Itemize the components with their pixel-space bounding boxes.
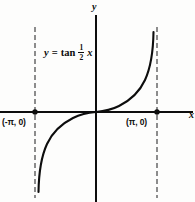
fraction-numerator: 1 — [79, 44, 84, 52]
left-intercept-dot — [32, 109, 37, 114]
tangent-graph-figure: y x (-π, 0) (π, 0) y = tan 1 2 x — [0, 0, 195, 202]
equation-equals-sign: = — [51, 48, 58, 59]
equation-label: y = tan 1 2 x — [44, 44, 93, 62]
equation-function-name: tan — [61, 48, 76, 59]
right-intercept-label: (π, 0) — [126, 118, 147, 127]
left-intercept-label: (-π, 0) — [2, 118, 26, 127]
equation-coefficient-fraction: 1 2 — [78, 44, 84, 62]
right-intercept-dot — [154, 109, 159, 114]
equation-lhs: y — [44, 48, 49, 59]
fraction-denominator: 2 — [79, 54, 84, 62]
equation-argument: x — [87, 48, 92, 59]
x-axis-label: x — [189, 110, 194, 120]
y-axis-label: y — [92, 2, 96, 12]
graph-canvas — [0, 0, 195, 202]
